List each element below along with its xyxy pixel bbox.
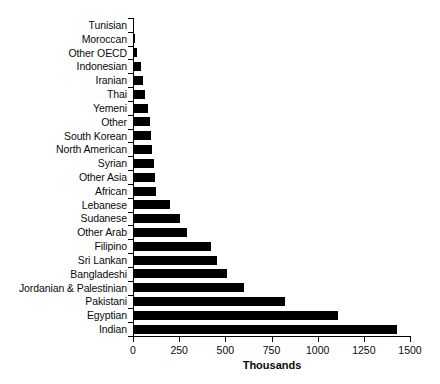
- y-axis-tick: [128, 198, 133, 199]
- bar-row: [133, 87, 410, 102]
- y-axis-category-labels: TunisianMoroccanOther OECDIndonesianIran…: [0, 18, 127, 336]
- bar: [133, 62, 141, 71]
- bar: [133, 311, 338, 320]
- y-axis-tick: [128, 281, 133, 282]
- y-axis-tick-label: Sri Lankan: [0, 254, 127, 266]
- y-axis-tick-label: Other: [0, 116, 127, 128]
- y-axis-tick: [128, 46, 133, 47]
- y-axis-tick-label: Indian: [0, 323, 127, 335]
- x-axis-tick: [364, 337, 365, 342]
- y-axis-tick-label: Thai: [0, 88, 127, 100]
- bar-row: [133, 156, 410, 171]
- y-axis-tick-label: African: [0, 185, 127, 197]
- x-axis-tick-label: 500: [217, 344, 235, 356]
- y-axis-tick-label: Syrian: [0, 157, 127, 169]
- bar: [133, 173, 155, 182]
- x-axis-tick: [272, 337, 273, 342]
- bar: [133, 228, 187, 237]
- bar-row: [133, 184, 410, 199]
- bar-row: [133, 322, 410, 337]
- x-axis-tick-label: 1500: [398, 344, 421, 356]
- y-axis-tick: [128, 59, 133, 60]
- bar-row: [133, 18, 410, 33]
- x-axis-tick: [318, 337, 319, 342]
- bar-row: [133, 32, 410, 47]
- bar-row: [133, 170, 410, 185]
- y-axis-tick: [128, 184, 133, 185]
- y-axis-tick: [128, 156, 133, 157]
- y-axis-tick-label: Other Arab: [0, 226, 127, 238]
- y-axis-tick: [128, 267, 133, 268]
- y-axis-tick: [128, 239, 133, 240]
- y-axis-tick: [128, 308, 133, 309]
- y-axis-tick: [128, 32, 133, 33]
- y-axis-tick-label: Bangladeshi: [0, 268, 127, 280]
- bar: [133, 145, 152, 154]
- y-axis-tick: [128, 225, 133, 226]
- y-axis-tick-label: North American: [0, 143, 127, 155]
- bar: [133, 256, 217, 265]
- y-axis-tick: [128, 115, 133, 116]
- y-axis-tick-label: Indonesian: [0, 60, 127, 72]
- y-axis-tick: [128, 73, 133, 74]
- x-axis-tick: [225, 337, 226, 342]
- bar: [133, 104, 148, 113]
- bar-row: [133, 198, 410, 213]
- y-axis-tick-label: Moroccan: [0, 33, 127, 45]
- bar-row: [133, 73, 410, 88]
- x-axis-tick: [410, 337, 411, 342]
- bar: [133, 214, 180, 223]
- y-axis-tick-label: South Korean: [0, 130, 127, 142]
- bar: [133, 90, 145, 99]
- bar-row: [133, 295, 410, 310]
- y-axis-tick: [128, 295, 133, 296]
- bar: [133, 117, 150, 126]
- x-axis-tick-label: 250: [170, 344, 188, 356]
- y-axis-tick: [128, 87, 133, 88]
- bar: [133, 242, 211, 251]
- x-axis-tick-label: 750: [263, 344, 281, 356]
- y-axis-tick: [128, 129, 133, 130]
- y-axis-tick-label: Other Asia: [0, 171, 127, 183]
- y-axis-tick-label: Egyptian: [0, 309, 127, 321]
- bar-row: [133, 267, 410, 282]
- y-axis-tick: [128, 142, 133, 143]
- y-axis-tick-label: Tunisian: [0, 19, 127, 31]
- y-axis-tick-label: Yemeni: [0, 102, 127, 114]
- y-axis-tick-label: Filipino: [0, 240, 127, 252]
- y-axis-tick-label: Pakistani: [0, 295, 127, 307]
- y-axis-tick: [128, 170, 133, 171]
- y-axis-tick: [128, 212, 133, 213]
- bar: [133, 48, 137, 57]
- x-axis-tick: [179, 337, 180, 342]
- y-axis-tick: [128, 322, 133, 323]
- bar-row: [133, 101, 410, 116]
- bar: [133, 76, 143, 85]
- bar: [133, 200, 170, 209]
- bar: [133, 325, 397, 334]
- bar-row: [133, 225, 410, 240]
- x-axis-tick-label: 0: [130, 344, 136, 356]
- bar: [133, 159, 154, 168]
- y-axis-tick-label: Sudanese: [0, 212, 127, 224]
- bar: [133, 21, 134, 30]
- y-axis-tick-label: Lebanese: [0, 199, 127, 211]
- bar-row: [133, 281, 410, 296]
- bar-row: [133, 239, 410, 254]
- bar-row: [133, 212, 410, 227]
- bar-row: [133, 59, 410, 74]
- bar: [133, 187, 156, 196]
- y-axis-tick: [128, 18, 133, 19]
- bar-row: [133, 142, 410, 157]
- y-axis-tick-label: Other OECD: [0, 47, 127, 59]
- x-axis-tick: [133, 337, 134, 342]
- bar: [133, 283, 244, 292]
- bar: [133, 269, 227, 278]
- y-axis-tick: [128, 101, 133, 102]
- bar: [133, 131, 151, 140]
- x-axis-title: Thousands: [243, 359, 302, 371]
- bar-row: [133, 115, 410, 130]
- x-axis-tick-label: 1250: [352, 344, 375, 356]
- y-axis-tick-label: Iranian: [0, 74, 127, 86]
- plot-area: [133, 18, 410, 336]
